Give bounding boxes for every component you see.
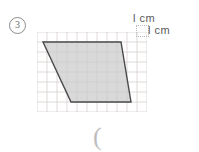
unit-square-legend: l cm l cm (128, 12, 196, 46)
unit-legend-top-label: l cm (133, 12, 155, 24)
answer-blank[interactable]: ( (93, 124, 102, 150)
problem-number-badge: 3 (9, 17, 26, 34)
unit-legend-right-label: l cm (148, 24, 170, 36)
